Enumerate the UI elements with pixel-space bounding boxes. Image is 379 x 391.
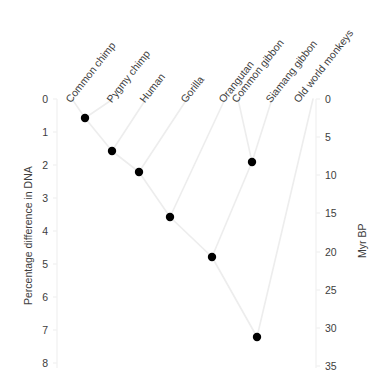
branch-gibbonnode-to-apegibbon bbox=[212, 162, 252, 257]
node-marker-gibbon-split bbox=[248, 158, 256, 166]
myr-tick-label-30: 30 bbox=[325, 323, 347, 334]
node-marker-human-chimp-split bbox=[108, 147, 116, 155]
node-marker-gorilla-split bbox=[135, 168, 143, 176]
branch-orangnode-to-apegibbon bbox=[170, 217, 212, 257]
myr-tick-label-20: 20 bbox=[325, 247, 347, 258]
branch-apegibbon-to-root bbox=[212, 257, 257, 337]
branch-chimp-to-humanchimp bbox=[85, 118, 112, 151]
myr-tick-label-5: 5 bbox=[325, 132, 347, 143]
branch-human bbox=[112, 99, 146, 151]
myr-tick-label-0: 0 bbox=[325, 94, 347, 105]
branch-gorillanode-to-orangnode bbox=[139, 172, 170, 217]
y-tick-label-8: 8 bbox=[28, 358, 48, 369]
branch-siamang-gibbon bbox=[252, 99, 272, 162]
y-tick-label-1: 1 bbox=[28, 127, 48, 138]
myr-tick-label-35: 35 bbox=[325, 361, 347, 372]
tree-branches bbox=[72, 99, 313, 337]
y-axis-title-right: Myr BP bbox=[356, 224, 368, 258]
branch-old-world-monkeys bbox=[257, 99, 313, 337]
tree-node-markers bbox=[81, 114, 261, 341]
y-tick-label-7: 7 bbox=[28, 325, 48, 336]
node-marker-chimp-split bbox=[81, 114, 89, 122]
branch-humanchimp-to-gorilla-node bbox=[112, 151, 139, 172]
branch-orangutan bbox=[170, 99, 225, 217]
myr-tick-label-25: 25 bbox=[325, 285, 347, 296]
y-tick-label-0: 0 bbox=[28, 94, 48, 105]
node-marker-orangutan-split bbox=[166, 213, 174, 221]
branch-gorilla bbox=[139, 99, 187, 172]
myr-tick-label-15: 15 bbox=[325, 208, 347, 219]
node-marker-ape-gibbon-split bbox=[208, 253, 216, 261]
branch-common-gibbon bbox=[238, 99, 252, 162]
phylogenetic-tree-figure: 0 1 2 3 4 5 6 7 8 0 5 10 15 20 25 30 35 … bbox=[0, 0, 379, 391]
node-marker-catarrhine-split bbox=[253, 333, 261, 341]
myr-tick-label-10: 10 bbox=[325, 170, 347, 181]
y-axis-title-left: Percentage difference in DNA bbox=[22, 166, 34, 305]
